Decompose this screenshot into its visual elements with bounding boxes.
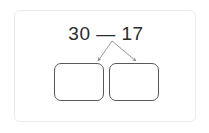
- math-problem-card: 30 — 17: [14, 10, 196, 122]
- answer-boxes-row: [15, 63, 197, 107]
- branch-arrow-right: [112, 41, 136, 61]
- branch-arrows-group: [67, 39, 151, 65]
- answer-box-right[interactable]: [109, 63, 159, 101]
- answer-box-left[interactable]: [54, 63, 104, 101]
- branch-arrow-left: [98, 41, 112, 61]
